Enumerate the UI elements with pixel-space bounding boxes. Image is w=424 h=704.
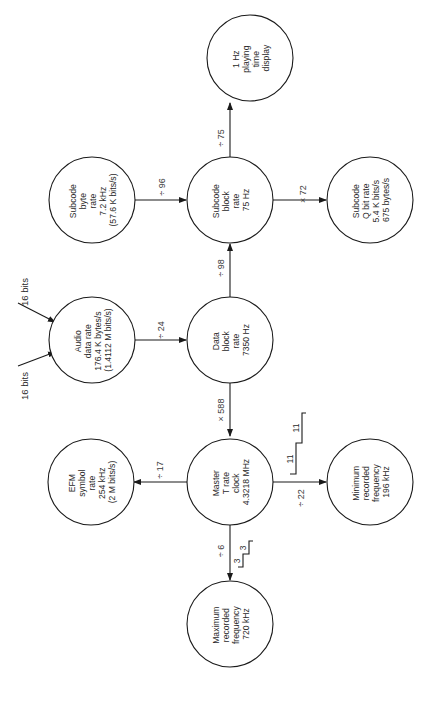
edge-label-div98: ÷ 98 bbox=[216, 259, 226, 276]
node-master-clock: Master T rate clock 4.3218 MHz bbox=[187, 439, 273, 525]
input-label-16bits-right: 16 bits bbox=[19, 278, 30, 306]
svg-text:Maximum recorded f: Maximum recorded frequency 720 kHz bbox=[211, 604, 251, 644]
edge-label-div6: ÷ 6 bbox=[216, 545, 226, 557]
node-maximum-recorded-frequency: Maximum recorded frequency 720 kHz bbox=[187, 581, 273, 667]
node-subcode-byte-rate: Subcode byte rate 7.2 kHz (57.6 K bits/s… bbox=[49, 157, 135, 243]
edge-label-x72: × 72 bbox=[298, 185, 308, 203]
input-arrow-left bbox=[18, 352, 55, 366]
waveform-11t-pulse bbox=[290, 413, 306, 474]
waveform-11t-label-2: 11 bbox=[291, 423, 301, 432]
node-data-block-rate: Data block rate 7350 Hz bbox=[187, 297, 273, 383]
node-subcode-q-bit-rate: Subcode Q bit rate 5.4 K bits/s 675 byte… bbox=[327, 157, 413, 243]
cd-clock-rate-diagram: ÷ 75 × 72 ÷ 96 ÷ 98 ÷ 24 × 588 ÷ 17 ÷ 22… bbox=[0, 0, 424, 704]
edge-label-div17: ÷ 17 bbox=[155, 461, 165, 478]
waveform-3t-label-1: 3 bbox=[232, 558, 242, 563]
node-playing-time-display: 1 Hz playing time display bbox=[207, 15, 293, 101]
input-label-16bits-left: 16 bits bbox=[19, 372, 30, 400]
svg-text:Subcode Q bit rate: Subcode Q bit rate 5.4 K bits/s 675 byte… bbox=[351, 178, 391, 223]
svg-text:Minimum recorded f: Minimum recorded frequency 196 kHz bbox=[351, 462, 391, 502]
edge-label-x588: × 588 bbox=[216, 399, 226, 422]
edge-label-div96: ÷ 96 bbox=[157, 178, 167, 195]
node-subcode-block-rate: Subcode block rate 75 Hz bbox=[187, 157, 273, 243]
waveform-3t-label-2: 3 bbox=[238, 545, 248, 550]
node-audio-data-rate: Audio data rate 176.4 K bytes/s (1.4112 … bbox=[49, 297, 135, 383]
edge-label-div75: ÷ 75 bbox=[216, 129, 226, 146]
waveform-11t-label-1: 11 bbox=[285, 454, 295, 463]
edge-label-div22: ÷ 22 bbox=[296, 489, 306, 506]
node-minimum-recorded-frequency: Minimum recorded frequency 196 kHz bbox=[327, 439, 413, 525]
node-efm-symbol-rate: EFM symbol rate 254 kHz (2 M bits/s) bbox=[48, 439, 134, 525]
edge-label-div24: ÷ 24 bbox=[156, 321, 166, 338]
